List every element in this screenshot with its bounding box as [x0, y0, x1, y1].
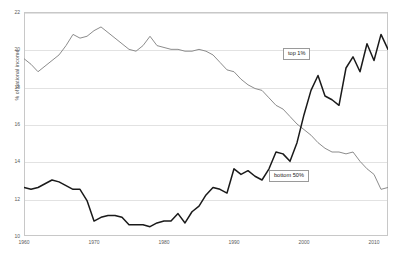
series-container: [24, 12, 388, 236]
y-axis-tick-label: 22: [2, 9, 20, 15]
y-axis-tick-label: 14: [2, 158, 20, 164]
x-axis-tick-label: 2000: [289, 239, 319, 245]
y-axis-tick-label: 18: [2, 84, 20, 90]
income-share-line-chart: % of national income 22 20 18 16 14 12 1…: [0, 0, 398, 257]
y-axis-tick-label: 10: [2, 233, 20, 239]
x-axis-tick-label: 1990: [219, 239, 249, 245]
x-axis-tick-label: 1980: [149, 239, 179, 245]
top-1-percent-label: top 1%: [283, 48, 310, 60]
series-line-top-1: [24, 34, 388, 226]
bottom-50-percent-label: bottom 50%: [269, 170, 309, 182]
y-axis-tick-label: 12: [2, 196, 20, 202]
x-axis-tick-label: 1970: [79, 239, 109, 245]
x-axis-tick-label: 1960: [9, 239, 39, 245]
y-axis-tick-label: 20: [2, 46, 20, 52]
y-axis-tick-label: 16: [2, 121, 20, 127]
series-line-bottom-50: [24, 27, 388, 189]
y-axis-title: % of national income: [14, 20, 20, 130]
x-axis-tick-label: 2010: [359, 239, 389, 245]
